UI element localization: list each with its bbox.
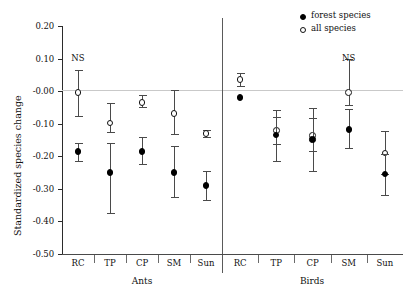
data-point-all-species xyxy=(203,130,210,137)
error-bar-cap-lower xyxy=(107,132,115,133)
error-bar-cap-lower xyxy=(139,107,147,108)
error-bar-cap-lower xyxy=(171,197,179,198)
y-tick-label: -0.50 xyxy=(4,249,54,259)
legend-marker-all-icon xyxy=(300,27,306,33)
data-point-all-species xyxy=(345,89,352,96)
data-point-forest-species xyxy=(382,171,388,177)
y-tick-label: 0.10 xyxy=(4,54,54,64)
error-bar-cap-lower xyxy=(345,105,353,106)
panel-label-ants: Ants xyxy=(112,276,172,286)
error-bar xyxy=(110,143,111,213)
error-bar-cap-upper xyxy=(381,154,389,155)
error-bar-cap-upper xyxy=(75,143,83,144)
error-bar-cap-lower xyxy=(107,213,115,214)
error-bar-cap-lower xyxy=(139,164,147,165)
data-point-forest-species xyxy=(107,169,113,175)
error-bar-cap-lower xyxy=(75,116,83,117)
category-label-rc: RC xyxy=(220,258,260,268)
error-bar-cap-upper xyxy=(273,110,281,111)
data-point-all-species xyxy=(171,110,178,117)
data-point-forest-species xyxy=(203,182,209,188)
error-bar-cap-upper xyxy=(107,143,115,144)
error-bar-cap-upper xyxy=(345,109,353,110)
error-bar-cap-upper xyxy=(171,146,179,147)
y-tick-label: -0.00 xyxy=(4,86,54,96)
data-point-forest-species xyxy=(346,126,352,132)
error-bar xyxy=(110,103,111,132)
data-point-forest-species xyxy=(237,94,243,100)
error-bar-cap-upper xyxy=(139,95,147,96)
error-bar-cap-upper xyxy=(381,131,389,132)
y-tick-label: -0.40 xyxy=(4,216,54,226)
data-point-forest-species xyxy=(139,148,145,154)
error-bar-cap-lower xyxy=(345,148,353,149)
y-tick-label: -0.10 xyxy=(4,119,54,129)
error-bar-cap-upper xyxy=(75,70,83,71)
error-bar-cap-upper xyxy=(139,137,147,138)
y-tick-label: 0.20 xyxy=(4,21,54,31)
error-bar-cap-upper xyxy=(309,108,317,109)
error-bar-cap-upper xyxy=(237,73,245,74)
panel-label-birds: Birds xyxy=(282,276,342,286)
data-point-all-species xyxy=(139,99,146,106)
error-bar-cap-lower xyxy=(75,161,83,162)
data-point-forest-species xyxy=(171,169,177,175)
error-bar-cap-upper xyxy=(107,103,115,104)
category-axis-ants xyxy=(62,254,222,255)
ns-annotation: NS xyxy=(63,53,93,63)
y-tick-label: -0.20 xyxy=(4,151,54,161)
error-bar-cap-lower xyxy=(309,171,317,172)
error-bar-cap-lower xyxy=(203,137,211,138)
error-bar xyxy=(349,59,350,105)
data-point-forest-species xyxy=(309,136,315,142)
panel-divider xyxy=(222,18,223,273)
ns-annotation: NS xyxy=(334,53,364,63)
category-label-tp: TP xyxy=(256,258,296,268)
category-label-cp: CP xyxy=(293,258,333,268)
figure-root: Standardized species change 0.200.10-0.0… xyxy=(0,0,403,298)
legend-label-all: all species xyxy=(311,23,356,33)
error-bar-cap-lower xyxy=(237,86,245,87)
error-bar-cap-lower xyxy=(381,195,389,196)
category-label-sm: SM xyxy=(329,258,369,268)
data-point-all-species xyxy=(237,76,244,83)
legend-marker-forest-icon xyxy=(300,14,306,20)
error-bar-cap-upper xyxy=(203,171,211,172)
y-axis-label: Standardized species change xyxy=(12,95,23,236)
error-bar-cap-lower xyxy=(273,161,281,162)
y-tick-label: -0.30 xyxy=(4,184,54,194)
legend-label-forest: forest species xyxy=(311,10,371,20)
data-point-all-species xyxy=(107,120,114,127)
data-point-forest-species xyxy=(273,132,279,138)
category-axis-birds xyxy=(222,254,403,255)
error-bar-cap-lower xyxy=(203,200,211,201)
data-point-all-species xyxy=(75,89,82,96)
data-point-forest-species xyxy=(75,148,81,154)
category-label-sun: Sun xyxy=(365,258,403,268)
error-bar-cap-lower xyxy=(171,134,179,135)
error-bar-cap-upper xyxy=(171,90,179,91)
